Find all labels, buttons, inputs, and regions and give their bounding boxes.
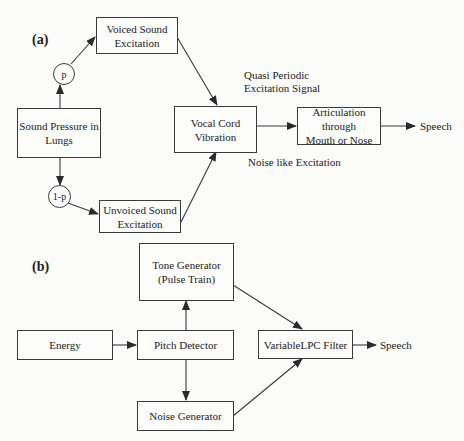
- noise-like-excitation-annotation: Noise like Excitation: [248, 156, 341, 169]
- tone-line2: (Pulse Train): [152, 272, 221, 286]
- variable-lpc-filter-box: VariableLPC Filter: [258, 330, 353, 359]
- probability-p-node: p: [53, 63, 75, 85]
- unvoiced-line1: Unvoiced Sound: [103, 203, 177, 217]
- vocal-cord-vibration-box: Vocal Cord Vibration: [174, 106, 257, 153]
- unvoiced-sound-excitation-box: Unvoiced Sound Excitation: [99, 200, 181, 233]
- articulation-line2: Mouth or Nose: [298, 133, 380, 147]
- speech-output-label-a: Speech: [420, 120, 452, 133]
- quasi-line2: Excitation Signal: [244, 82, 320, 95]
- tone-generator-box: Tone Generator (Pulse Train): [139, 243, 234, 301]
- energy-box: Energy: [17, 330, 113, 360]
- tone-line1: Tone Generator: [152, 258, 221, 272]
- voiced-line1: Voiced Sound: [106, 22, 167, 36]
- voiced-line2: Excitation: [106, 36, 167, 50]
- sound-pressure-lungs-box: Sound Pressure in Lungs: [17, 108, 101, 158]
- panel-label-a: (a): [32, 32, 48, 48]
- probability-1-minus-p-node: 1-p: [48, 185, 71, 208]
- panel-label-b: (b): [32, 259, 49, 275]
- pitch-detector-box: Pitch Detector: [137, 330, 234, 360]
- voiced-sound-excitation-box: Voiced Sound Excitation: [96, 17, 178, 54]
- unvoiced-line2: Excitation: [103, 217, 177, 231]
- lungs-line1: Sound Pressure in: [19, 119, 98, 133]
- noise-generator-box: Noise Generator: [137, 401, 234, 431]
- articulation-line1: Articulation through: [298, 105, 380, 133]
- speech-output-label-b: Speech: [380, 339, 412, 352]
- lungs-line2: Lungs: [19, 133, 98, 147]
- quasi-periodic-annotation: Quasi Periodic Excitation Signal: [244, 69, 320, 95]
- articulation-box: Articulation through Mouth or Nose: [297, 107, 381, 145]
- quasi-line1: Quasi Periodic: [244, 69, 320, 82]
- speech-production-figure: (a) Voiced Sound Excitation p Sound Pres…: [0, 0, 464, 441]
